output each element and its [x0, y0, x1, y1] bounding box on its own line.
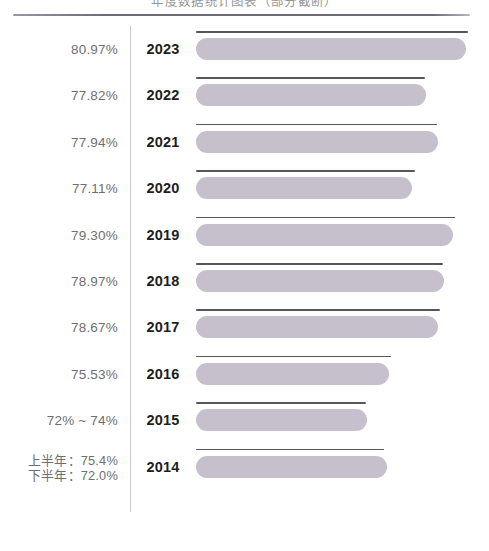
- bar-cap-line: [196, 217, 455, 219]
- percent-label-line: 79.30%: [0, 228, 118, 243]
- yearly-rate-bar-chart: 80.97%202377.82%202277.94%202177.11%2020…: [0, 24, 489, 544]
- table-row: 80.97%2023: [0, 26, 489, 72]
- bar: [196, 224, 453, 246]
- bar: [196, 131, 438, 153]
- year-label: 2019: [136, 227, 190, 243]
- percent-label-line: 上半年：75.4%: [0, 453, 118, 468]
- percent-label: 77.94%: [0, 135, 118, 150]
- bar: [196, 316, 438, 338]
- percent-label: 75.53%: [0, 367, 118, 382]
- percent-label-line: 75.53%: [0, 367, 118, 382]
- table-row: 78.97%2018: [0, 258, 489, 304]
- bar-cap-line: [196, 402, 366, 404]
- table-row: 77.94%2021: [0, 119, 489, 165]
- year-label: 2020: [136, 180, 190, 196]
- bar-cap-line: [196, 77, 425, 79]
- table-row: 72% ~ 74%2015: [0, 397, 489, 443]
- bar-cap-line: [196, 263, 443, 265]
- year-label: 2022: [136, 87, 190, 103]
- bar-cap-line: [196, 124, 437, 126]
- table-row: 77.11%2020: [0, 165, 489, 211]
- table-row: 78.67%2017: [0, 304, 489, 350]
- percent-label: 77.82%: [0, 88, 118, 103]
- table-row: 77.82%2022: [0, 72, 489, 118]
- percent-label: 上半年：75.4%下半年：72.0%: [0, 453, 118, 483]
- table-row: 上半年：75.4%下半年：72.0%2014: [0, 444, 489, 490]
- percent-label-line: 80.97%: [0, 42, 118, 57]
- year-label: 2021: [136, 134, 190, 150]
- percent-label: 72% ~ 74%: [0, 413, 118, 428]
- bar: [196, 409, 367, 431]
- bar-cap-line: [196, 449, 384, 451]
- bar: [196, 177, 412, 199]
- percent-label: 77.11%: [0, 181, 118, 196]
- bar-cap-line: [196, 309, 440, 311]
- bar: [196, 363, 389, 385]
- year-label: 2015: [136, 412, 190, 428]
- bar: [196, 84, 426, 106]
- top-horizontal-rule: [13, 14, 470, 16]
- bar-cap-line: [196, 170, 415, 172]
- bar-cap-line: [196, 356, 391, 358]
- year-label: 2014: [136, 459, 190, 475]
- percent-label: 79.30%: [0, 228, 118, 243]
- year-label: 2017: [136, 319, 190, 335]
- percent-label: 78.67%: [0, 320, 118, 335]
- percent-label-line: 77.94%: [0, 135, 118, 150]
- percent-label-line: 下半年：72.0%: [0, 468, 118, 483]
- percent-label-line: 78.97%: [0, 274, 118, 289]
- year-label: 2023: [136, 41, 190, 57]
- percent-label-line: 77.11%: [0, 181, 118, 196]
- percent-label: 80.97%: [0, 42, 118, 57]
- table-row: 75.53%2016: [0, 351, 489, 397]
- bar: [196, 38, 466, 60]
- year-label: 2018: [136, 273, 190, 289]
- percent-label-line: 72% ~ 74%: [0, 413, 118, 428]
- table-row: 79.30%2019: [0, 212, 489, 258]
- bar: [196, 456, 387, 478]
- clipped-header-title: 年度数据统计图表（部分截断）: [0, 0, 489, 7]
- bar: [196, 270, 444, 292]
- percent-label-line: 78.67%: [0, 320, 118, 335]
- bar-cap-line: [196, 31, 468, 33]
- percent-label-line: 77.82%: [0, 88, 118, 103]
- percent-label: 78.97%: [0, 274, 118, 289]
- year-label: 2016: [136, 366, 190, 382]
